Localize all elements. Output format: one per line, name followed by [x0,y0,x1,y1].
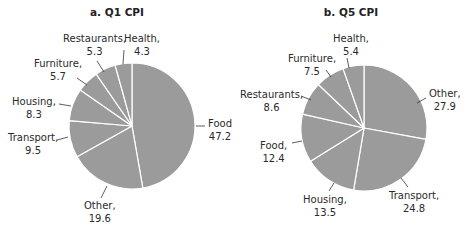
leader-line-housing [329,183,334,191]
leader-line-transport [401,178,408,187]
label-restaurants: Restaurants,8.6 [240,89,303,114]
pie-slice-transport [354,128,426,191]
label-furniture: Furniture,5.7 [34,58,82,83]
leader-line-food [292,141,302,143]
label-health: Health,4.3 [124,33,160,58]
leader-line-restaurants [97,61,104,72]
label-other: Other,19.6 [84,200,116,225]
label-other: Other,27.9 [429,88,461,113]
label-health: Health,5.4 [333,33,369,58]
leader-line-transport [57,137,68,140]
label-housing: Housing,13.5 [303,194,347,219]
leader-line-housing [59,104,71,106]
label-transport: Transport,24.8 [389,190,439,215]
label-food: Food,12.4 [260,140,287,165]
label-transport: Transport,9.5 [8,132,58,157]
label-restaurants: Restaurants,5.3 [63,33,126,58]
label-furniture: Furniture,7.5 [288,53,336,78]
chart-panel-q5: b. Q5 CPI Other,27.9 Transport,24.8 Hous… [234,0,468,228]
pie-slice-food [132,63,195,188]
leader-line-other [101,186,107,198]
pie-slice-other [364,65,427,139]
chart-panel-q1: a. Q1 CPI Food47.2 Other,19.6 Transport,… [0,0,234,228]
label-housing: Housing,8.3 [12,96,56,121]
label-food: Food47.2 [208,118,232,143]
